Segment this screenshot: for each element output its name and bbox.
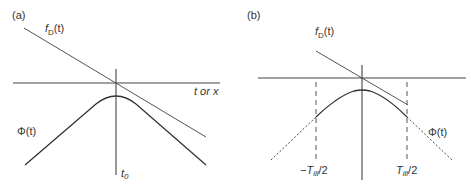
panel-b-fd-label: fD(t) — [315, 25, 334, 40]
panel-a-label: (a) — [12, 9, 25, 21]
diagram-canvas: (a) fD(t) t or x Φ(t) t0 (b) fD(t) — [0, 0, 471, 186]
panel-b-phase-curve-left-extension — [271, 117, 316, 160]
panel-a-phase-label: Φ(t) — [17, 125, 36, 137]
panel-a-t0-label: t0 — [121, 167, 129, 181]
panel-b-left-marker-label: −Till/2 — [300, 164, 328, 178]
panel-b-phase-label: Φ(t) — [428, 126, 447, 138]
panel-b: (b) fD(t) Φ(t) −Till/2 Till/2 — [247, 9, 466, 180]
panel-b-label: (b) — [247, 9, 260, 21]
panel-b-phase-curve-right-extension — [407, 117, 452, 160]
panel-a: (a) fD(t) t or x Φ(t) t0 — [12, 9, 220, 181]
panel-a-fd-label: fD(t) — [45, 22, 64, 37]
panel-a-axis-label: t or x — [194, 85, 219, 97]
panel-b-right-marker-label: Till/2 — [396, 164, 417, 178]
